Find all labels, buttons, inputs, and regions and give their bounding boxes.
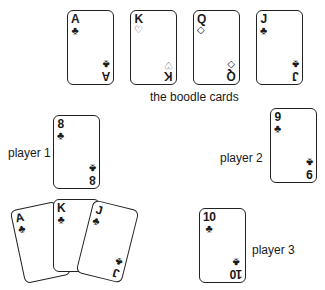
club-icon: ♣ (89, 163, 96, 174)
club-icon: ♣ (232, 257, 239, 268)
card-rank: Q (227, 70, 236, 82)
card-rank: K (164, 70, 172, 82)
heart-icon: ♡ (134, 25, 143, 35)
card-index-top: J ♣ (91, 203, 104, 227)
club-icon: ♣ (102, 59, 109, 70)
card-index-top: A ♣ (71, 13, 79, 36)
card-index-bottom: A ♣ (102, 59, 110, 82)
card-rank: J (292, 70, 298, 82)
card-index-bottom: 9 ♣ (306, 157, 313, 180)
card-index-bottom: 10 ♣ (230, 257, 242, 280)
card-index-top: Q ◇ (197, 13, 206, 35)
boodle-card-queen-diamonds: Q ◇ Q ◇ (193, 10, 240, 85)
card-index-bottom: J ♣ (292, 59, 299, 82)
card-index-top: J ♣ (260, 13, 267, 36)
card-rank: 10 (230, 268, 242, 280)
club-icon: ♣ (206, 223, 213, 234)
card-index-top: K ♣ (57, 202, 65, 225)
card-rank: 9 (306, 168, 312, 180)
card-index-bottom: K ♡ (164, 60, 173, 82)
club-icon: ♣ (71, 25, 78, 36)
club-icon: ♣ (114, 256, 124, 268)
boodle-card-ace-clubs: A ♣ A ♣ (67, 10, 114, 85)
diamond-icon: ◇ (228, 60, 236, 70)
boodle-cards-label: the boodle cards (150, 90, 239, 104)
player1-label: player 1 (8, 146, 51, 160)
card-index-bottom: Q ◇ (227, 60, 236, 82)
player3-label: player 3 (252, 243, 295, 257)
club-icon: ♣ (306, 157, 313, 168)
club-icon: ♣ (274, 123, 281, 134)
player1-card-eight-clubs: 8 ♣ 8 ♣ (53, 115, 100, 189)
heart-icon: ♡ (164, 60, 173, 70)
player2-card-nine-clubs: 9 ♣ 9 ♣ (270, 108, 317, 183)
card-index-top: 9 ♣ (274, 111, 281, 134)
boodle-card-king-hearts: K ♡ K ♡ (130, 10, 177, 85)
card-index-bottom: J ♣ (111, 256, 124, 280)
card-index-top: A ♣ (14, 211, 27, 235)
player2-label: player 2 (220, 151, 263, 165)
card-index-top: 10 ♣ (203, 211, 215, 234)
diamond-icon: ◇ (197, 25, 205, 35)
card-rank: A (102, 70, 110, 82)
card-rank: 8 (89, 174, 95, 186)
club-icon: ♣ (91, 215, 101, 227)
club-icon: ♣ (17, 223, 26, 235)
club-icon: ♣ (292, 59, 299, 70)
club-icon: ♣ (260, 25, 267, 36)
player3-card-ten-clubs: 10 ♣ 10 ♣ (199, 208, 246, 283)
card-index-top: K ♡ (134, 13, 143, 35)
card-index-top: 8 ♣ (57, 118, 64, 141)
club-icon: ♣ (57, 130, 64, 141)
card-index-bottom: 8 ♣ (89, 163, 96, 186)
boodle-card-jack-clubs: J ♣ J ♣ (256, 10, 303, 85)
club-icon: ♣ (57, 214, 64, 225)
